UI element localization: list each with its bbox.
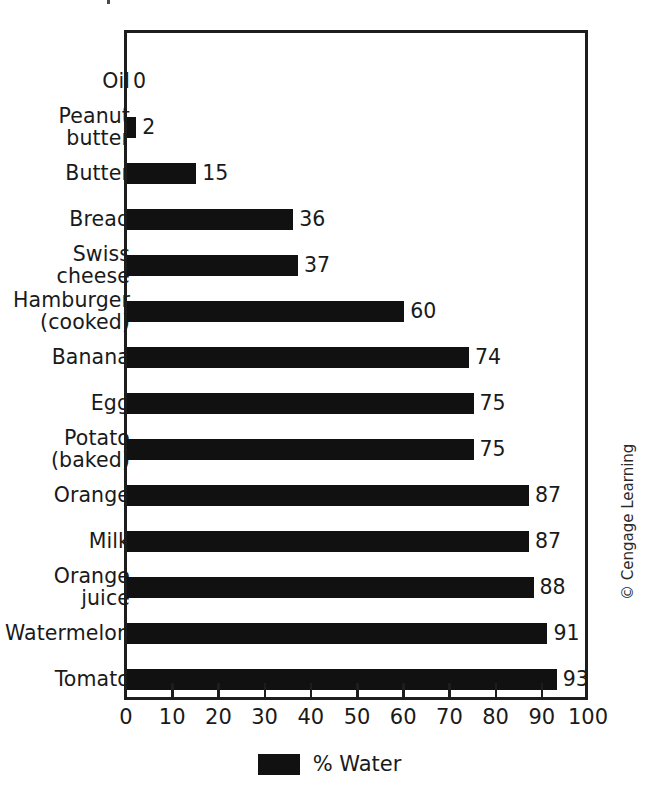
category-label: Butter <box>0 162 130 184</box>
x-axis-tick <box>448 683 451 700</box>
bar <box>127 393 474 414</box>
bar-row: Swiss cheese37 <box>0 243 659 289</box>
category-label: Oil <box>0 70 130 92</box>
bar-row: Watermelon91 <box>0 611 659 657</box>
bar-row: Banana74 <box>0 335 659 381</box>
category-label: Potato (baked) <box>0 427 130 471</box>
x-axis-tick <box>402 683 405 700</box>
category-label: Egg <box>0 392 130 414</box>
bar-row: Butter15 <box>0 151 659 197</box>
bar-value-label: 93 <box>563 667 589 691</box>
x-axis-tick <box>217 683 220 700</box>
bar-value-label: 36 <box>299 207 325 231</box>
bar-value-label: 75 <box>480 437 506 461</box>
bar-value-label: 0 <box>133 69 146 93</box>
bar <box>127 255 298 276</box>
category-label: Watermelon <box>0 622 130 644</box>
bar-row: Milk87 <box>0 519 659 565</box>
bar <box>127 669 557 690</box>
copyright-credit: © Cengage Learning <box>620 444 637 600</box>
x-axis-tick-label: 80 <box>482 705 509 729</box>
x-axis-tick-label: 100 <box>568 705 608 729</box>
bar-row: Bread36 <box>0 197 659 243</box>
x-axis-tick <box>264 683 267 700</box>
x-axis-tick-label: 90 <box>528 705 555 729</box>
bar <box>127 623 547 644</box>
x-axis-tick <box>541 683 544 700</box>
bar-value-label: 15 <box>202 161 228 185</box>
bar-row: Oil0 <box>0 59 659 105</box>
bar-row: Peanut butter2 <box>0 105 659 151</box>
bar-value-label: 75 <box>480 391 506 415</box>
x-axis-tick <box>495 683 498 700</box>
bar <box>127 485 529 506</box>
bar-row: Egg75 <box>0 381 659 427</box>
x-axis-tick <box>171 683 174 700</box>
bar-row: Orange juice88 <box>0 565 659 611</box>
bar <box>127 301 404 322</box>
x-axis-tick <box>356 683 359 700</box>
bar-row: Potato (baked)75 <box>0 427 659 473</box>
bar-value-label: 87 <box>535 483 561 507</box>
bar <box>127 209 293 230</box>
bar-value-label: 88 <box>540 575 566 599</box>
category-label: Banana <box>0 346 130 368</box>
x-axis-tick-label: 70 <box>436 705 463 729</box>
bar-value-label: 37 <box>304 253 330 277</box>
legend-label-water: % Water <box>313 752 402 776</box>
chart-legend: % Water <box>0 752 659 776</box>
bar <box>127 347 469 368</box>
bar-value-label: 91 <box>553 621 579 645</box>
bar-rows-container: Oil0Peanut butter2Butter15Bread36Swiss c… <box>0 30 659 700</box>
bar-value-label: 60 <box>410 299 436 323</box>
category-label: Milk <box>0 530 130 552</box>
x-axis-tick-label: 20 <box>205 705 232 729</box>
water-content-bar-chart: Oil0Peanut butter2Butter15Bread36Swiss c… <box>0 0 659 796</box>
bar-row: Hamburger (cooked)60 <box>0 289 659 335</box>
bar-value-label: 2 <box>142 115 155 139</box>
bar-row: Orange87 <box>0 473 659 519</box>
bar <box>127 163 196 184</box>
bar <box>127 531 529 552</box>
x-axis-tick-label: 30 <box>251 705 278 729</box>
bar <box>127 439 474 460</box>
category-label: Orange juice <box>0 565 130 609</box>
category-label: Hamburger (cooked) <box>0 289 130 333</box>
bar <box>127 577 534 598</box>
category-label: Tomato <box>0 668 130 690</box>
bar <box>127 117 136 138</box>
scan-artifact-mark <box>107 0 110 4</box>
category-label: Swiss cheese <box>0 243 130 287</box>
x-axis-tick-label: 50 <box>344 705 371 729</box>
bar-value-label: 74 <box>475 345 501 369</box>
x-axis-tick-label: 10 <box>159 705 186 729</box>
x-axis-tick-label: 40 <box>297 705 324 729</box>
category-label: Peanut butter <box>0 105 130 149</box>
bar-value-label: 87 <box>535 529 561 553</box>
category-label: Bread <box>0 208 130 230</box>
legend-swatch-water <box>258 754 300 775</box>
category-label: Orange <box>0 484 130 506</box>
bar-row: Tomato93 <box>0 657 659 703</box>
x-axis-tick <box>310 683 313 700</box>
x-axis-tick-label: 60 <box>390 705 417 729</box>
x-axis-tick-label: 0 <box>119 705 132 729</box>
